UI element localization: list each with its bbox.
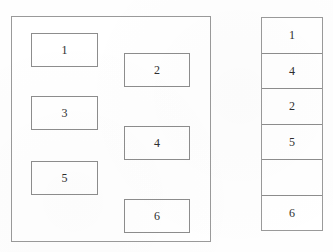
stack-cell-5[interactable]: 5 — [262, 125, 322, 161]
node-box-4[interactable]: 4 — [124, 126, 190, 160]
stack-cell-6[interactable]: 6 — [262, 196, 322, 231]
stack-cell-1[interactable]: 1 — [262, 18, 322, 54]
stack-cell-label: 1 — [289, 29, 295, 41]
node-box-label: 5 — [61, 172, 67, 184]
node-box-1[interactable]: 1 — [31, 33, 98, 67]
node-box-3[interactable]: 3 — [31, 96, 98, 130]
stack-cell-label: 4 — [289, 65, 295, 77]
stack-cell-2[interactable]: 2 — [262, 89, 322, 125]
node-box-5[interactable]: 5 — [31, 161, 98, 195]
right-stack-column: 14256 — [261, 17, 323, 231]
stack-cell-label: 5 — [289, 136, 295, 148]
stack-cell-label: 2 — [289, 100, 295, 112]
stack-cell-4[interactable]: 4 — [262, 54, 322, 90]
stack-cell-empty[interactable] — [262, 160, 322, 196]
node-box-6[interactable]: 6 — [124, 199, 190, 233]
node-box-label: 6 — [154, 210, 160, 222]
node-box-label: 3 — [61, 107, 67, 119]
diagram-canvas: 123456 14256 — [0, 0, 333, 252]
node-box-label: 4 — [154, 137, 160, 149]
stack-cell-label: 6 — [289, 207, 295, 219]
node-box-label: 2 — [154, 64, 160, 76]
node-box-label: 1 — [61, 44, 67, 56]
node-box-2[interactable]: 2 — [124, 53, 190, 87]
